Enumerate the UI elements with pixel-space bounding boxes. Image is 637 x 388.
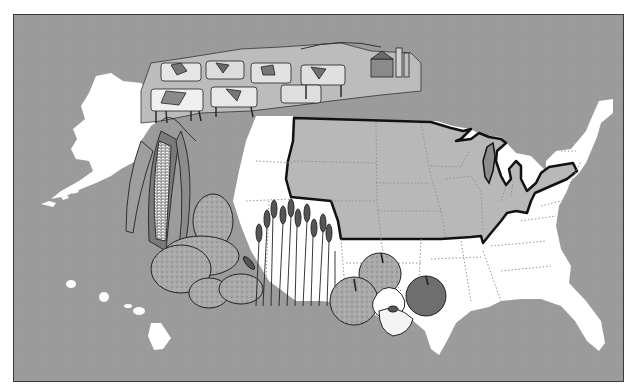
us-agriculture-map bbox=[14, 15, 624, 382]
silo-icon bbox=[396, 48, 402, 77]
barn-icon bbox=[371, 59, 393, 77]
map-frame bbox=[13, 14, 624, 382]
